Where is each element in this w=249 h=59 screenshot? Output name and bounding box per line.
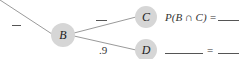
node-d-label: D [141,43,151,57]
d-equals-sign: = [207,44,213,56]
edge-root-b-blank [12,16,21,28]
node-c-label: C [142,10,151,24]
edge-root-b [0,0,52,34]
edge-b-d-label: .9 [99,44,107,56]
c-probability-expression: P(B ∩ C) = [165,11,217,23]
d-expression-blank [165,44,203,56]
d-answer-blank [218,44,239,56]
node-b-label: B [59,28,67,42]
edge-b-c-blank [96,11,107,23]
c-answer-blank [218,11,239,23]
